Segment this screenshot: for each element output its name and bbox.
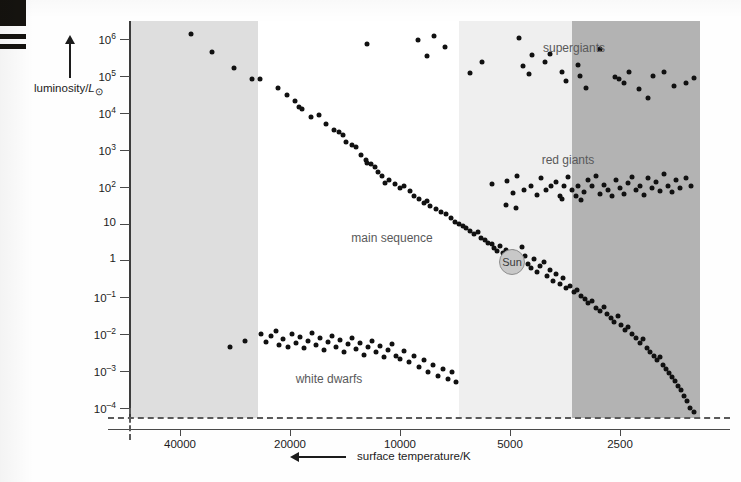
star-point xyxy=(326,340,331,345)
star-point xyxy=(618,186,623,191)
hr-diagram-figure: supergiantsred giantsmain sequencewhite … xyxy=(0,0,741,482)
star-point xyxy=(568,284,573,289)
star-point xyxy=(277,343,282,348)
y-axis-tick-label: 10–1 xyxy=(0,289,116,304)
star-point xyxy=(293,99,298,104)
star-point xyxy=(517,36,522,41)
star-point xyxy=(444,212,449,217)
sun-marker[interactable]: Sun xyxy=(499,249,525,275)
supergiants-label: supergiants xyxy=(543,41,605,55)
star-point xyxy=(598,309,603,314)
y-axis-tick-label: 10 xyxy=(0,216,116,228)
star-point xyxy=(189,32,194,37)
y-axis-tick xyxy=(120,224,130,225)
star-point xyxy=(334,345,339,350)
star-point xyxy=(514,206,519,211)
star-point xyxy=(692,76,697,81)
star-point xyxy=(622,81,627,86)
star-point xyxy=(330,334,335,339)
star-point xyxy=(504,203,509,208)
x-axis-tick xyxy=(620,429,621,436)
star-point xyxy=(454,380,459,385)
star-point xyxy=(476,230,481,235)
star-point xyxy=(590,299,595,304)
star-point xyxy=(366,345,371,350)
star-point xyxy=(684,176,689,181)
y-axis-tick xyxy=(120,260,130,261)
star-point xyxy=(386,348,391,353)
star-point xyxy=(350,336,355,341)
up-arrow-icon xyxy=(69,42,71,78)
star-point xyxy=(685,399,690,404)
star-point xyxy=(566,175,571,180)
star-point xyxy=(627,70,632,75)
star-point xyxy=(310,331,315,336)
star-point xyxy=(535,193,540,198)
star-point xyxy=(286,345,291,350)
star-point xyxy=(666,184,671,189)
star-point xyxy=(551,279,556,284)
star-point xyxy=(309,115,314,120)
star-point xyxy=(264,340,269,345)
star-point xyxy=(318,336,323,341)
star-point xyxy=(259,332,264,337)
y-axis-title: luminosity/L⊙ xyxy=(34,82,103,97)
star-point xyxy=(480,60,485,65)
star-point xyxy=(617,77,622,82)
star-point xyxy=(598,192,603,197)
star-point xyxy=(672,84,677,89)
star-point xyxy=(678,186,683,191)
star-point xyxy=(393,182,398,187)
star-point xyxy=(539,176,544,181)
star-point xyxy=(658,355,663,360)
star-point xyxy=(527,72,532,77)
left-arrow-icon xyxy=(298,456,346,458)
star-point xyxy=(651,74,656,79)
star-point xyxy=(300,107,305,112)
y-axis-tick-label: 1 xyxy=(0,252,116,264)
star-point xyxy=(602,183,607,188)
y-axis-tick xyxy=(120,408,130,409)
star-point xyxy=(505,179,510,184)
star-point xyxy=(281,337,286,342)
star-point xyxy=(646,176,651,181)
star-point xyxy=(425,54,430,59)
star-point xyxy=(382,355,387,360)
x-axis-line xyxy=(108,429,730,430)
y-axis-tick xyxy=(120,113,130,114)
star-point xyxy=(380,174,385,179)
star-point xyxy=(274,329,279,334)
star-point xyxy=(232,66,237,71)
star-point xyxy=(387,178,392,183)
star-point xyxy=(317,113,322,118)
scan-artifact-corner xyxy=(0,0,26,26)
star-point xyxy=(370,339,375,344)
y-axis-line xyxy=(129,21,131,418)
star-point xyxy=(578,74,583,79)
star-point xyxy=(543,60,548,65)
star-point xyxy=(358,341,363,346)
star-point xyxy=(586,178,591,183)
star-point xyxy=(662,70,667,75)
star-point xyxy=(630,175,635,180)
y-axis-title-prefix: luminosity/ xyxy=(34,82,88,94)
y-axis-tick-label: 102 xyxy=(0,179,116,194)
white-dwarfs-label: white dwarfs xyxy=(296,372,363,386)
star-point xyxy=(416,38,421,43)
band-yellow-white xyxy=(459,21,572,418)
star-point xyxy=(619,323,624,328)
y-axis-tick-label: 10–2 xyxy=(0,326,116,341)
x-axis-tick-label: 10000 xyxy=(384,438,416,450)
star-point xyxy=(511,191,516,196)
star-point xyxy=(402,184,407,189)
star-point xyxy=(564,79,569,84)
x-axis-tick xyxy=(180,429,181,436)
star-point xyxy=(441,367,446,372)
band-orange-red xyxy=(572,21,700,418)
star-point xyxy=(338,338,343,343)
star-point xyxy=(562,184,567,189)
star-point xyxy=(692,410,697,415)
star-point xyxy=(210,50,215,55)
star-point xyxy=(228,345,233,350)
star-point xyxy=(302,346,307,351)
